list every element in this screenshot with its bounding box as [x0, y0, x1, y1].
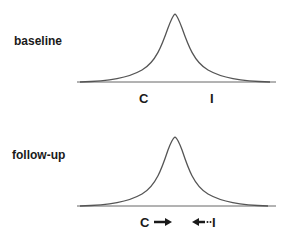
baseline-label: baseline	[14, 34, 62, 48]
arrow-left-dotted-icon	[192, 218, 212, 226]
follow-up-label: follow-up	[12, 148, 65, 162]
follow-up-panel	[77, 137, 276, 226]
arrow-right-icon	[154, 218, 172, 226]
baseline-c-label: C	[139, 91, 148, 106]
follow-up-i-label: I	[212, 215, 216, 230]
follow-up-curve	[80, 137, 268, 206]
baseline-curve	[80, 14, 270, 82]
baseline-i-label: I	[210, 91, 214, 106]
baseline-panel	[77, 14, 276, 82]
follow-up-c-label: C	[140, 215, 149, 230]
